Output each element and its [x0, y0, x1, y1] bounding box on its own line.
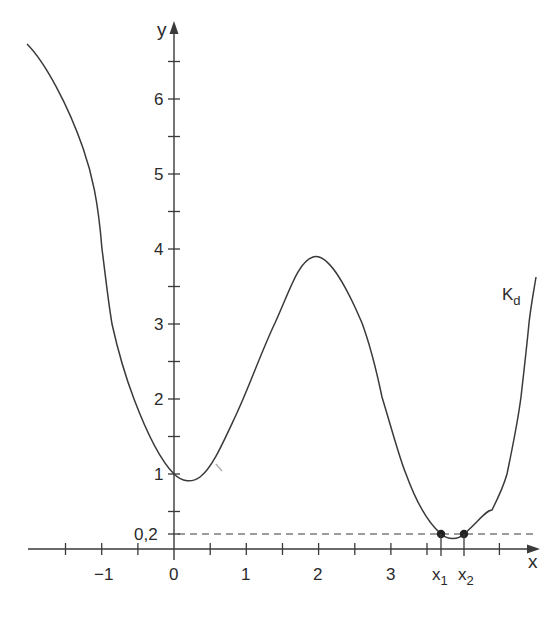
y-tick-label-1: 1 [154, 465, 163, 484]
x-tick-label-0: 0 [169, 565, 178, 584]
x-tick-label-minus1: −1 [94, 565, 113, 584]
y-tick-label-2: 2 [154, 390, 163, 409]
y-tick-label-4: 4 [154, 240, 163, 259]
y-axis-label: y [157, 19, 167, 40]
curve-label-kd: Kd [502, 285, 521, 308]
x-tick-label-2: 2 [313, 565, 322, 584]
y-axis: 0,2 1 2 3 4 5 6 y [134, 19, 180, 560]
y-tick-label-3: 3 [154, 315, 163, 334]
y-tick-label-5: 5 [154, 165, 163, 184]
x-tick-label-3: 3 [386, 565, 395, 584]
function-graph: −1 0 1 2 3 x 0,2 1 2 3 4 5 6 y [0, 0, 556, 621]
y-tick-label-0-2: 0,2 [134, 525, 158, 544]
x2-label: x2 [458, 565, 474, 588]
y-tick-label-6: 6 [154, 90, 163, 109]
x-axis-label: x [528, 551, 538, 572]
scan-artifact [216, 464, 222, 471]
curve-kd [27, 44, 536, 539]
y-axis-arrow-icon [170, 21, 179, 34]
x1-label: x1 [432, 565, 448, 588]
x-tick-label-1: 1 [241, 565, 250, 584]
